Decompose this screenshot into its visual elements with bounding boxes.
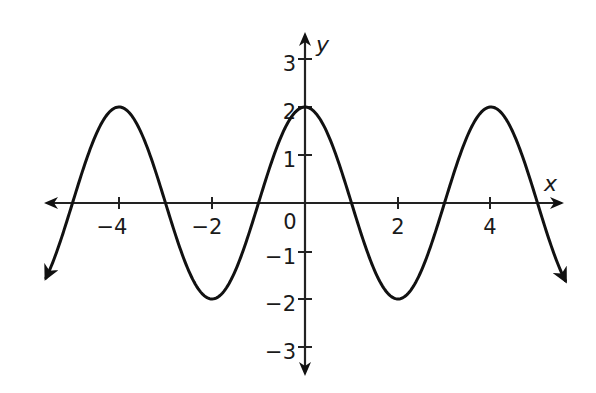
y-tick-label: −3 — [265, 340, 296, 364]
y-tick-labels: −3 −2 −1 1 2 3 — [265, 52, 296, 364]
x-axis-title: x — [543, 171, 558, 196]
cosine-graph: −4 −2 0 2 4 −3 −2 −1 1 2 3 x y — [0, 0, 596, 393]
x-tick-label: −2 — [192, 215, 223, 239]
y-tick-label: −2 — [265, 292, 296, 316]
y-axis-title: y — [315, 32, 330, 57]
y-tick-label: 1 — [283, 148, 296, 172]
x-tick-label: 2 — [391, 215, 404, 239]
y-tick-label: −1 — [265, 245, 296, 269]
y-tick-label: 3 — [283, 52, 296, 76]
x-tick-label: −4 — [97, 215, 128, 239]
x-tick-label: 0 — [283, 210, 296, 234]
x-tick-label: 4 — [483, 215, 496, 239]
